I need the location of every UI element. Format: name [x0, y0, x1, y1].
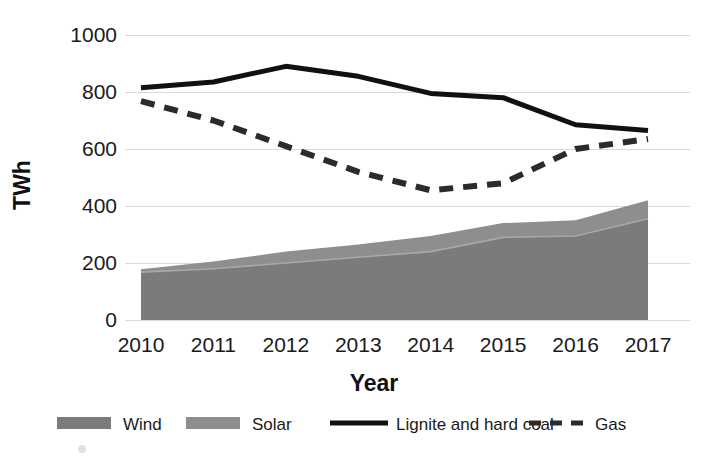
- y-tick-label: 0: [105, 308, 117, 331]
- x-tick-label: 2014: [407, 333, 454, 356]
- x-axis-title: Year: [350, 370, 399, 396]
- scan-artifact-speck: [78, 445, 86, 453]
- legend-label: Solar: [252, 415, 292, 434]
- y-tick-label: 600: [82, 137, 117, 160]
- y-tick-label: 800: [82, 80, 117, 103]
- y-tick-label: 200: [82, 251, 117, 274]
- x-tick-label: 2017: [625, 333, 672, 356]
- x-tick-label: 2011: [191, 333, 236, 356]
- legend-label: Gas: [595, 415, 626, 434]
- legend-swatch: [186, 417, 240, 429]
- chart-container: 02004006008001000 2010201120122013201420…: [0, 0, 703, 463]
- legend-label: Wind: [123, 415, 162, 434]
- energy-generation-chart: 02004006008001000 2010201120122013201420…: [0, 0, 703, 463]
- x-tick-label: 2010: [118, 333, 165, 356]
- y-tick-label: 1000: [70, 23, 117, 46]
- x-tick-label: 2012: [262, 333, 309, 356]
- x-tick-label: 2015: [480, 333, 527, 356]
- y-axis-title: TWh: [9, 160, 35, 210]
- legend-swatch: [57, 417, 111, 429]
- x-tick-label: 2016: [552, 333, 599, 356]
- x-tick-label: 2013: [335, 333, 382, 356]
- y-tick-label: 400: [82, 194, 117, 217]
